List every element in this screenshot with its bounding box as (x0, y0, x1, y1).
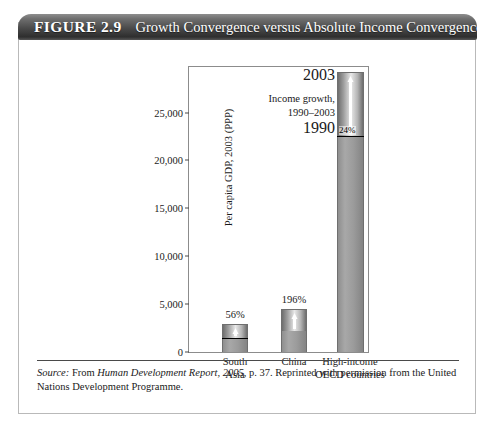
y-axis-title: Per capita GDP, 2003 (PPP) (223, 73, 234, 263)
y-tick-mark-10000 (185, 256, 189, 257)
y-tick-label-20000: 20,000 (154, 155, 183, 166)
annotation-1990: 1990 (303, 119, 335, 137)
growth-segment-china (281, 309, 307, 332)
source-italic-title: Human Development Report, 2005 (97, 367, 243, 378)
chart-plot-area: Per capita GDP, 2003 (PPP) 25,000 20,000… (188, 66, 369, 353)
growth-percent-label-china: 196% (282, 294, 307, 305)
annotation-line-2: 1990–2003 (269, 106, 335, 120)
growth-percent-label-high-income-oecd: 24% (339, 126, 356, 135)
y-tick-label-10000: 10,000 (154, 251, 183, 262)
y-tick-mark-15000 (185, 208, 189, 209)
base-segment-china (281, 331, 307, 352)
y-tick-label-0: 0 (178, 347, 183, 358)
source-divider (37, 360, 459, 361)
y-tick-mark-5000 (185, 304, 189, 305)
annotation-line-1: Income growth, (269, 92, 335, 106)
base-segment-high-income-oecd (337, 137, 364, 353)
source-text-before: From (69, 367, 97, 378)
bar-high-income-oecd: 24% (337, 72, 364, 352)
y-tick-mark-0 (185, 352, 189, 353)
annotation-income-growth: Income growth, 1990–2003 (269, 92, 335, 119)
growth-arrow-icon (232, 328, 239, 337)
growth-segment-south-asia (222, 324, 248, 340)
figure-box: FIGURE 2.9 Growth Convergence versus Abs… (18, 22, 476, 414)
growth-percent-label-south-asia: 56% (225, 309, 244, 320)
growth-arrow-icon (291, 313, 298, 329)
y-tick-label-15000: 15,000 (154, 203, 183, 214)
figure-title-bar: FIGURE 2.9 Growth Convergence versus Abs… (18, 14, 477, 40)
growth-segment-high-income-oecd: 24% (337, 72, 364, 136)
figure-number: FIGURE 2.9 (34, 18, 122, 36)
base-segment-south-asia (222, 339, 248, 352)
y-tick-mark-20000 (185, 160, 189, 161)
y-tick-mark-25000 (185, 112, 189, 113)
bar-south-asia: 56% (222, 324, 248, 352)
annotation-2003: 2003 (303, 66, 335, 84)
bar-china: 196% (281, 309, 307, 352)
source-note: Source: From Human Development Report, 2… (37, 366, 461, 393)
source-prefix: Source: (37, 367, 69, 378)
figure-title: Growth Convergence versus Absolute Incom… (136, 19, 477, 36)
y-tick-label-25000: 25,000 (154, 107, 183, 118)
y-tick-label-5000: 5,000 (159, 299, 183, 310)
